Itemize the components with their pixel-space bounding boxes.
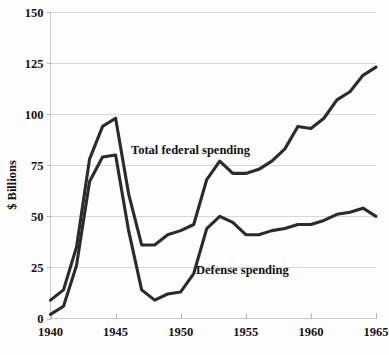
x-axis-tick-labels: 194019451950195519601965 — [38, 325, 389, 339]
chart-canvas: 0255075100125150 19401945195019551960196… — [0, 0, 389, 355]
x-tick-label-1945: 1945 — [103, 325, 128, 339]
y-tick-label-100: 100 — [25, 108, 44, 122]
y-tick-label-125: 125 — [25, 57, 44, 71]
gridlines — [51, 13, 377, 268]
data-series — [51, 67, 377, 314]
y-axis-title: $ Billions — [5, 160, 19, 210]
x-tick-label-1965: 1965 — [364, 325, 389, 339]
x-tick-label-1940: 1940 — [38, 325, 63, 339]
defense-spending-label: Defense spending — [196, 263, 289, 277]
x-axis-tick-marks — [52, 313, 377, 319]
y-tick-label-75: 75 — [31, 159, 44, 173]
y-tick-label-150: 150 — [25, 6, 44, 20]
y-axis-tick-labels: 0255075100125150 — [25, 6, 51, 327]
y-tick-label-25: 25 — [31, 261, 44, 275]
x-tick-label-1950: 1950 — [168, 325, 193, 339]
spending-line-chart: 0255075100125150 19401945195019551960196… — [0, 0, 389, 355]
x-tick-label-1955: 1955 — [233, 325, 258, 339]
y-tick-label-50: 50 — [31, 210, 44, 224]
total-federal-spending-label: Total federal spending — [131, 143, 251, 157]
x-tick-label-1960: 1960 — [298, 325, 323, 339]
series-line-defense-spending — [51, 155, 377, 314]
